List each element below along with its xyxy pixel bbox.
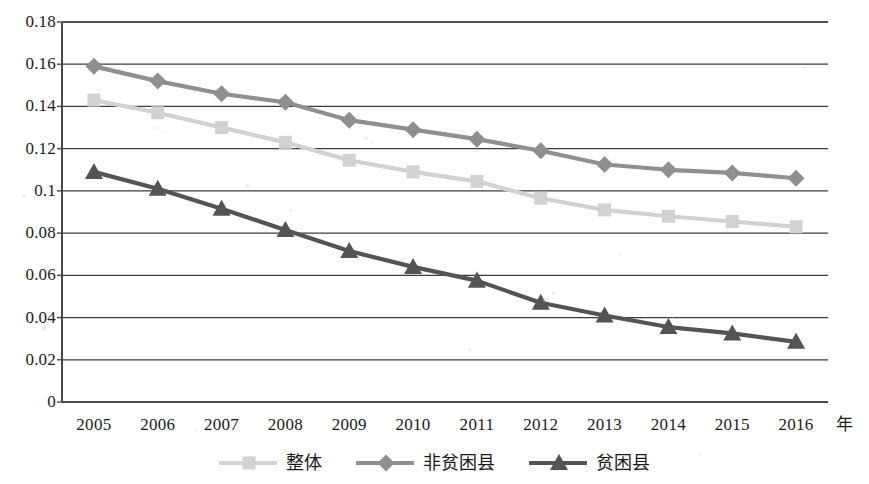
- legend-item-1[interactable]: 整体: [219, 454, 322, 472]
- x-axis-tick-label: 2005: [64, 416, 124, 433]
- x-axis-tick-label: 2007: [192, 416, 252, 433]
- data-point-marker: [468, 131, 485, 148]
- legend-label: 贫困县: [596, 454, 650, 472]
- data-point-marker: [85, 163, 103, 179]
- plot-area: [0, 0, 869, 484]
- x-axis-tick-label: 2013: [575, 416, 635, 433]
- axis-lines: [57, 22, 828, 402]
- legend-marker-icon: [356, 454, 414, 472]
- data-point-marker: [660, 161, 677, 178]
- legend-label: 整体: [286, 454, 322, 472]
- x-axis-tick-label: 2016: [766, 416, 826, 433]
- data-point-marker: [724, 164, 741, 181]
- legend-marker-icon: [219, 454, 277, 472]
- series-1: [87, 94, 802, 234]
- legend-item-2[interactable]: 非贫困县: [356, 454, 495, 472]
- data-point-marker: [470, 175, 483, 188]
- x-axis-tick-label: 2011: [447, 416, 507, 433]
- data-point-marker: [277, 94, 294, 111]
- gridlines: [62, 22, 828, 360]
- data-point-marker: [151, 106, 164, 119]
- data-point-marker: [598, 203, 611, 216]
- data-point-marker: [788, 170, 805, 187]
- data-point-marker: [405, 121, 422, 138]
- data-point-marker: [790, 220, 803, 233]
- data-point-marker: [341, 112, 358, 129]
- x-axis-tick-label: 2009: [319, 416, 379, 433]
- data-point-marker: [213, 85, 230, 102]
- data-point-marker: [85, 58, 102, 75]
- line-chart: 00.020.040.060.080.10.120.140.160.18 200…: [0, 0, 869, 484]
- legend-marker-icon: [529, 454, 587, 472]
- data-point-marker: [343, 154, 356, 167]
- x-axis-tick-label: 2014: [638, 416, 698, 433]
- data-point-marker: [87, 94, 100, 107]
- legend-label: 非贫困县: [423, 454, 495, 472]
- data-point-marker: [407, 165, 420, 178]
- x-axis-tick-label: 2012: [511, 416, 571, 433]
- data-point-marker: [726, 215, 739, 228]
- data-point-marker: [596, 156, 613, 173]
- data-point-marker: [279, 136, 292, 149]
- data-point-marker: [532, 142, 549, 159]
- data-point-marker: [149, 73, 166, 90]
- x-axis-tick-label: 2008: [255, 416, 315, 433]
- data-point-marker: [662, 210, 675, 223]
- legend-item-3[interactable]: 贫困县: [529, 454, 650, 472]
- data-point-marker: [534, 192, 547, 205]
- x-axis-tick-label: 2015: [702, 416, 762, 433]
- x-axis-unit-label: 年: [836, 416, 853, 433]
- data-point-marker: [215, 121, 228, 134]
- x-axis-tick-label: 2006: [128, 416, 188, 433]
- x-axis-tick-label: 2010: [383, 416, 443, 433]
- chart-legend: 整体非贫困县贫困县: [0, 448, 869, 478]
